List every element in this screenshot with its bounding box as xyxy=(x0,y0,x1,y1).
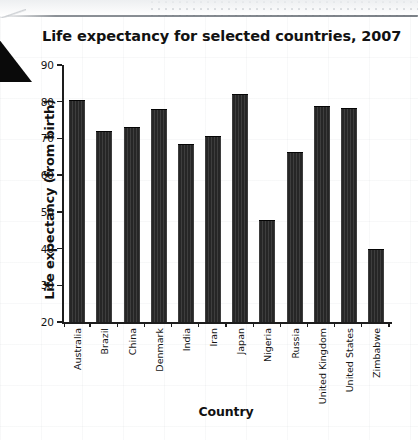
bar-slot xyxy=(281,65,308,322)
y-axis-tick-label: 80 xyxy=(28,96,54,108)
y-axis-tick-label: 50 xyxy=(28,206,54,218)
x-label-slot: Russia xyxy=(281,328,308,398)
bar xyxy=(69,100,85,322)
bar-slot xyxy=(172,65,199,322)
bar xyxy=(368,249,384,322)
y-axis-tick-mark xyxy=(57,321,62,322)
x-label-slot: Brazil xyxy=(91,328,118,398)
x-axis-category-label: Japan xyxy=(235,328,246,355)
x-axis-tick-mark xyxy=(388,322,389,327)
x-axis-category-label: Brazil xyxy=(99,328,110,355)
y-axis-tick-mark xyxy=(57,174,62,175)
bar-slot xyxy=(91,65,118,322)
x-axis-category-label: China xyxy=(126,328,137,355)
x-axis-category-label: United Kingdom xyxy=(316,328,327,404)
y-axis-tick-label: 20 xyxy=(28,316,54,328)
y-axis-tick-mark xyxy=(57,64,62,65)
x-label-slot: Japan xyxy=(227,328,254,398)
x-axis-category-label: Australia xyxy=(72,328,83,370)
x-axis-category-label: Denmark xyxy=(153,328,164,372)
x-axis-tick-mark xyxy=(64,322,65,327)
x-axis-tick-mark xyxy=(117,322,118,327)
bar-chart: Life expectancy for selected countries, … xyxy=(0,0,418,440)
chart-title: Life expectancy for selected countries, … xyxy=(42,28,418,44)
bar xyxy=(124,127,140,322)
x-axis-tick-labels: AustraliaBrazilChinaDenmarkIndiaIranJapa… xyxy=(64,328,390,398)
x-label-slot: United Kingdom xyxy=(308,328,335,398)
y-axis-tick-mark xyxy=(57,248,62,249)
x-axis-tick-mark xyxy=(253,322,254,327)
x-axis-tick-mark xyxy=(171,322,172,327)
bar xyxy=(205,136,221,322)
y-axis-tick-label: 30 xyxy=(28,279,54,291)
x-axis-category-label: Nigeria xyxy=(262,328,273,362)
bar-slot xyxy=(64,65,91,322)
y-axis-tick-label: 40 xyxy=(28,243,54,255)
x-axis-tick-mark xyxy=(307,322,308,327)
bar xyxy=(259,220,275,322)
x-axis-category-label: Russia xyxy=(289,328,300,359)
x-label-slot: Nigeria xyxy=(254,328,281,398)
x-label-slot: Australia xyxy=(64,328,91,398)
y-axis-tick-mark xyxy=(57,285,62,286)
x-axis-category-label: India xyxy=(180,328,191,351)
x-label-slot: India xyxy=(172,328,199,398)
x-label-slot: Denmark xyxy=(145,328,172,398)
bar xyxy=(151,109,167,322)
bar-slot xyxy=(308,65,335,322)
y-axis-tick-mark xyxy=(57,211,62,212)
x-axis-tick-mark xyxy=(225,322,226,327)
x-axis-tick-mark xyxy=(198,322,199,327)
bar-slot xyxy=(335,65,362,322)
x-axis-category-label: Zimbabwe xyxy=(371,328,382,378)
bar xyxy=(96,131,112,322)
x-axis-line xyxy=(62,322,392,324)
x-axis-tick-mark xyxy=(361,322,362,327)
y-axis-tick-label: 90 xyxy=(28,59,54,71)
bar xyxy=(314,106,330,322)
x-axis-tick-mark xyxy=(280,322,281,327)
bar-slot xyxy=(254,65,281,322)
bar-slot xyxy=(362,65,389,322)
x-axis-tick-mark xyxy=(334,322,335,327)
y-axis-tick-mark xyxy=(57,101,62,102)
bar xyxy=(341,108,357,322)
x-label-slot: United States xyxy=(335,328,362,398)
x-label-slot: Iran xyxy=(199,328,226,398)
bar-slot xyxy=(227,65,254,322)
bar-slot xyxy=(118,65,145,322)
bar-slot xyxy=(199,65,226,322)
bar xyxy=(232,94,248,322)
y-axis-tick-mark xyxy=(57,138,62,139)
y-axis-tick-label: 60 xyxy=(28,169,54,181)
bar-series xyxy=(64,65,390,322)
plot-area: 9080706050403020 xyxy=(62,65,390,322)
x-axis-tick-mark xyxy=(89,322,90,327)
x-axis-tick-mark xyxy=(144,322,145,327)
bar-slot xyxy=(145,65,172,322)
x-axis-category-label: Iran xyxy=(208,328,219,347)
x-label-slot: Zimbabwe xyxy=(362,328,389,398)
bar xyxy=(178,144,194,322)
x-label-slot: China xyxy=(118,328,145,398)
x-axis-title: Country xyxy=(62,404,390,419)
bar xyxy=(287,152,303,322)
y-axis-tick-label: 70 xyxy=(28,132,54,144)
x-axis-category-label: United States xyxy=(343,328,354,392)
